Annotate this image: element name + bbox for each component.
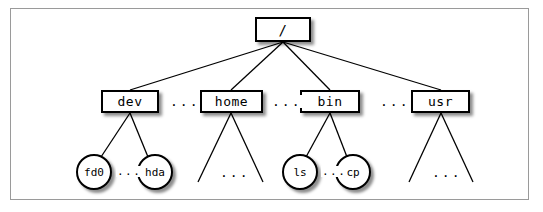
ellipsis-between-ls-cp: ... — [321, 166, 347, 177]
node-cp-label: cp — [346, 166, 359, 179]
ellipsis-between-fd0-hda: ... — [116, 166, 142, 177]
node-ls-label: ls — [293, 166, 306, 179]
ellipsis-under-usr: ... — [431, 166, 462, 179]
edge-root-dev — [130, 42, 283, 90]
ellipsis-between-bin-usr: ... — [379, 95, 410, 108]
node-usr[interactable]: usr — [411, 90, 470, 113]
node-ls[interactable]: ls — [282, 154, 318, 190]
edge-root-home — [231, 42, 283, 90]
node-home[interactable]: home — [200, 90, 263, 113]
node-usr-label: usr — [428, 94, 453, 109]
ellipsis-under-home: ... — [219, 166, 250, 179]
edge-bin-ls — [306, 113, 330, 157]
node-home-label: home — [215, 94, 248, 109]
node-root[interactable]: / — [255, 17, 311, 42]
node-fd0[interactable]: fd0 — [76, 154, 112, 190]
node-hda[interactable]: hda — [137, 154, 173, 190]
edge-bin-cp — [330, 113, 347, 157]
node-dev[interactable]: dev — [101, 90, 159, 113]
node-bin[interactable]: bin — [300, 90, 360, 113]
node-fd0-label: fd0 — [84, 166, 104, 179]
node-hda-label: hda — [145, 166, 165, 179]
node-dev-label: dev — [118, 94, 143, 109]
ellipsis-between-home-bin: ... — [271, 95, 302, 108]
edge-dev-fd0 — [101, 113, 130, 157]
ellipsis-between-dev-home: ... — [169, 95, 200, 108]
edge-dev-hda — [130, 113, 148, 157]
filesystem-tree-figure: / dev home bin usr fd0 hda ls cp ... ...… — [0, 0, 543, 212]
node-bin-label: bin — [318, 94, 343, 109]
node-root-label: / — [279, 22, 288, 38]
